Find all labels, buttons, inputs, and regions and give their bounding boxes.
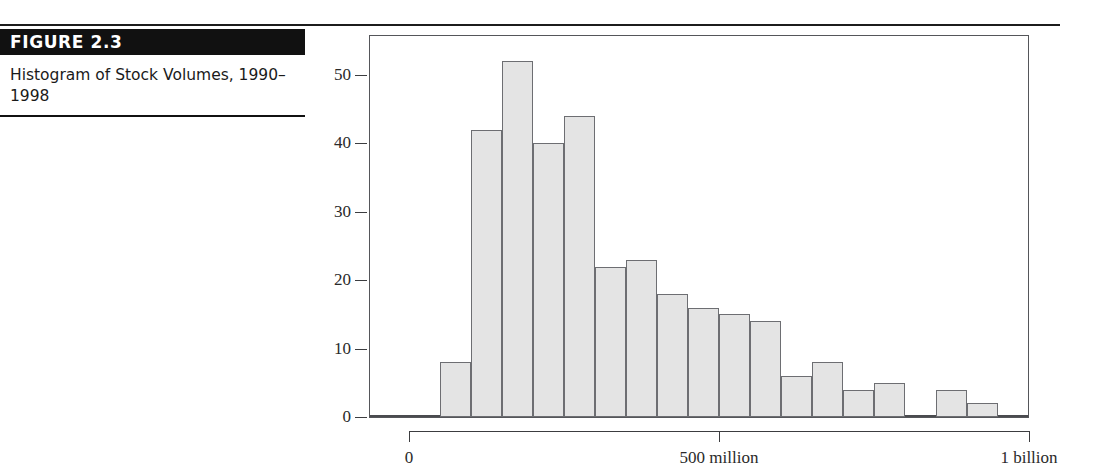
y-axis-tick bbox=[355, 280, 367, 281]
figure-caption-block: FIGURE 2.3 Histogram of Stock Volumes, 1… bbox=[0, 29, 305, 117]
figure-caption-rule bbox=[0, 115, 305, 117]
histogram-chart: 01020304050 0500 million1 billion bbox=[369, 35, 1029, 418]
x-axis-tick bbox=[1029, 431, 1030, 442]
y-axis: 01020304050 bbox=[369, 35, 1029, 418]
y-axis-tick bbox=[355, 417, 367, 418]
y-axis-tick-label: 0 bbox=[317, 407, 351, 427]
y-axis-tick-label: 30 bbox=[317, 202, 351, 222]
x-axis-tick bbox=[719, 431, 720, 442]
x-axis-tick bbox=[409, 431, 410, 442]
y-axis-tick-label: 40 bbox=[317, 133, 351, 153]
y-axis-tick-label: 20 bbox=[317, 270, 351, 290]
y-axis-tick bbox=[355, 143, 367, 144]
y-axis-tick bbox=[355, 349, 367, 350]
y-axis-tick bbox=[355, 75, 367, 76]
page-top-rule bbox=[0, 24, 1060, 26]
x-axis-tick-label: 500 million bbox=[680, 448, 759, 467]
figure-caption-text: Histogram of Stock Volumes, 1990–1998 bbox=[0, 65, 308, 107]
y-axis-tick-label: 10 bbox=[317, 339, 351, 359]
y-axis-tick bbox=[355, 212, 367, 213]
figure-number-bar: FIGURE 2.3 bbox=[0, 29, 305, 55]
x-axis-tick-label: 1 billion bbox=[1000, 448, 1057, 467]
y-axis-tick-label: 50 bbox=[317, 65, 351, 85]
x-axis-tick-label: 0 bbox=[405, 448, 414, 467]
figure-number-label: FIGURE 2.3 bbox=[10, 32, 122, 52]
